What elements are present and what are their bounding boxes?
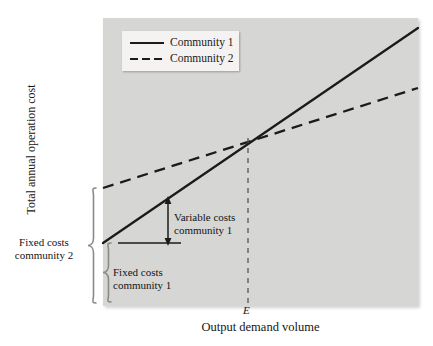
annotation-fixed-costs-community-1-line2: community 1 (113, 279, 171, 292)
legend-dashed-line-icon (130, 54, 164, 64)
legend-label-community-1: Community 1 (170, 37, 234, 49)
annotation-fixed-costs-community-2-line1: Fixed costs (2, 236, 86, 249)
annotation-variable-costs-community-1-line2: community 1 (174, 224, 235, 237)
y-axis-title: Total annual operation cost (24, 70, 39, 230)
annotation-fixed-costs-community-2-line2: community 2 (2, 249, 86, 262)
legend-solid-line-icon (130, 38, 164, 48)
legend-item-community-2: Community 2 (130, 51, 234, 67)
legend-label-community-2: Community 2 (170, 53, 234, 65)
annotation-fixed-costs-community-1: Fixed costs community 1 (113, 266, 171, 292)
chart-legend: Community 1 Community 2 (122, 31, 239, 71)
chart-figure: Community 1 Community 2 Total annual ope… (0, 0, 433, 346)
annotation-variable-costs-community-1: Variable costs community 1 (174, 211, 235, 237)
brace-fixed-costs-community-2 (88, 188, 96, 303)
annotation-variable-costs-community-1-line1: Variable costs (174, 211, 235, 224)
legend-item-community-1: Community 1 (130, 35, 234, 51)
annotation-fixed-costs-community-2: Fixed costs community 2 (2, 236, 86, 262)
breakeven-point-label: E (243, 304, 250, 316)
x-axis-title: Output demand volume (103, 320, 418, 335)
annotation-fixed-costs-community-1-line1: Fixed costs (113, 266, 171, 279)
